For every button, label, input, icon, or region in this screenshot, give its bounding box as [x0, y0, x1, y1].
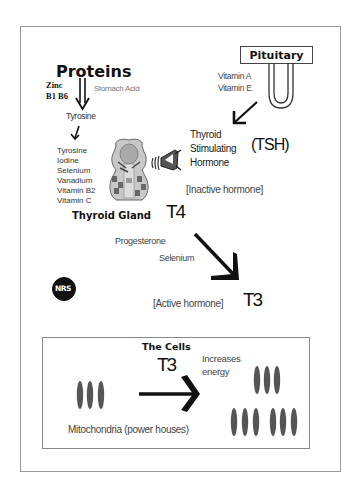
mitochondria-group-before — [75, 378, 107, 414]
input-vanadium: Vanadium — [57, 176, 96, 186]
active-hormone-label: [Active hormone] — [153, 298, 223, 309]
mitochondria-group-after — [228, 362, 300, 444]
arrow-right-icon — [137, 375, 203, 413]
thyroid-inputs-list: Tyrosine Iodine Selenium Vanadium Vitami… — [57, 146, 96, 206]
mitochondria-label: Mitochondria (power houses) — [68, 424, 189, 435]
tsh-abbrev: (TSH) — [251, 136, 289, 154]
pituitary-vitamins: Vitamin A Vitamin E — [218, 70, 252, 94]
pituitary-label: Pituitary — [240, 46, 313, 64]
nrs-logo: NRS — [52, 277, 76, 301]
thyroid-gland-icon — [104, 138, 154, 203]
input-selenium: Selenium — [57, 166, 96, 176]
cells-title: The Cells — [142, 341, 191, 352]
vitamin-a: Vitamin A — [218, 70, 252, 82]
pituitary-text: Pituitary — [250, 49, 304, 62]
cofactor-zinc: Zinc — [46, 80, 63, 91]
arrow-down-right-icon — [193, 232, 243, 284]
nrs-logo-text: NRS — [55, 284, 71, 293]
cofactor-b1-b6: B1 B6 — [46, 91, 68, 102]
t4-label: T4 — [166, 201, 184, 223]
progesterone-label: Progesterone — [115, 236, 165, 246]
t3-label: T3 — [243, 289, 261, 311]
inactive-hormone-label: [Inactive hormone] — [186, 184, 263, 195]
tsh-line-1: Thyroid — [190, 128, 236, 142]
tsh-line-3: Hormone — [190, 156, 236, 170]
arrow-down-left-icon — [230, 100, 260, 126]
stomach-acid-label: Stomach Acid — [94, 84, 139, 93]
input-iodine: Iodine — [57, 156, 96, 166]
tsh-full-name: Thyroid Stimulating Hormone — [190, 128, 236, 170]
megaphone-icon — [151, 148, 185, 174]
double-arrow-down-icon — [75, 78, 95, 112]
input-vitamin-b2: Vitamin B2 — [57, 186, 96, 196]
small-arrow-down-icon — [70, 125, 84, 141]
tsh-line-2: Stimulating — [190, 142, 236, 156]
input-tyrosine: Tyrosine — [57, 146, 96, 156]
cells-t3-label: T3 — [157, 354, 175, 376]
selenium-label: Selenium — [159, 253, 194, 263]
pituitary-stalk-icon — [266, 63, 296, 111]
tyrosine-label: Tyrosine — [66, 111, 96, 121]
input-vitamin-c: Vitamin C — [57, 196, 96, 206]
vitamin-e: Vitamin E — [218, 82, 252, 94]
thyroid-gland-label: Thyroid Gland — [72, 210, 151, 221]
